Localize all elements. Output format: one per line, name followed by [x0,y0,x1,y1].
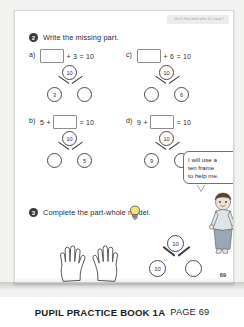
question-3-number: 3 [29,208,38,217]
part-d-operator-plus: + [143,119,147,126]
part-b-whole-node: 10 [62,131,77,146]
part-c-total: 10 [183,53,191,60]
footer-page-label: PAGE 69 [170,307,209,317]
question-2-prompt: Write the missing part. [43,33,119,42]
part-a-addend: 3 [73,53,77,60]
part-d-total: 10 [183,119,191,126]
part-c-operator-plus: + [164,53,168,60]
part-d-whole-node: 10 [159,131,174,146]
question-2-heading: 2 Write the missing part. [29,33,119,42]
part-a-operator-plus: + [67,53,71,60]
paper-sheet: Unit 3: Parts whole within 10, Lesson 7 … [14,10,234,284]
q3-left-part-node: 10 [149,260,166,277]
part-c-part-whole-model: 10 6 [138,65,196,105]
part-a-right-part-node[interactable] [77,87,92,102]
part-b: b) 5 + = 10 10 5 [29,115,126,171]
part-a-whole-node: 10 [62,65,77,80]
speech-bubble: I will use a ten frame to help me. [183,151,234,184]
part-c-answer-box[interactable] [137,49,161,63]
footer-book-title: PUPIL PRACTICE BOOK 1A [35,307,166,318]
footer-bar: PUPIL PRACTICE BOOK 1A PAGE 69 [0,297,244,327]
sheet-page-number: 69 [220,272,226,278]
part-a-equation: + 3 = 10 [29,49,126,63]
part-a-part-whole-model: 10 3 [41,65,99,105]
speech-bubble-line-3: to help me. [188,172,234,180]
lightbulb-icon [129,205,141,221]
part-d-label: d) [126,117,132,124]
speech-bubble-line-1: I will use a [188,156,234,164]
part-d-addend: 9 [137,119,141,126]
part-b-answer-box[interactable] [53,115,77,129]
question-2-number: 2 [29,33,38,42]
part-c-left-part-node[interactable] [144,87,159,102]
part-b-label: b) [29,117,35,124]
q3-right-part-node[interactable] [185,260,202,277]
student-character-illustration [203,192,234,254]
part-a-answer-box[interactable] [40,49,64,63]
part-d-equation: 9 + = 10 [126,115,223,129]
unit-lesson-header: Unit 3: Parts whole within 10, Lesson 7 [167,15,229,24]
part-a-left-part-node: 3 [47,87,62,102]
part-b-total: 10 [86,119,94,126]
part-b-operator-plus: + [46,119,50,126]
part-c-equation: + 6 = 10 [126,49,223,63]
part-b-part-whole-model: 10 5 [41,131,99,171]
part-b-equals: = [80,119,84,126]
speech-bubble-line-2: ten frame [188,164,234,172]
part-a-total: 10 [86,53,94,60]
part-c-addend: 6 [170,53,174,60]
part-b-addend: 5 [40,119,44,126]
two-open-hands-illustration [53,237,125,283]
part-a-equals: = [80,53,84,60]
part-d-equals: = [177,119,181,126]
part-c-equals: = [177,53,181,60]
part-b-right-part-node: 5 [77,153,92,168]
part-a-label: a) [29,51,35,58]
part-a: a) + 3 = 10 10 3 [29,49,126,105]
part-d-answer-box[interactable] [150,115,174,129]
speech-bubble-tail [197,184,205,191]
part-c: c) + 6 = 10 10 6 [126,49,223,105]
page-shadow [0,282,244,291]
part-c-label: c) [126,51,132,58]
part-b-left-part-node[interactable] [47,153,62,168]
worksheet-page: Unit 3: Parts whole within 10, Lesson 7 … [0,0,244,327]
question-3-part-whole-model: 10 10 [145,235,207,281]
part-b-equation: 5 + = 10 [29,115,126,129]
part-c-right-part-node: 6 [174,87,189,102]
q3-whole-node: 10 [167,235,184,252]
parts-row-1: a) + 3 = 10 10 3 [29,49,224,105]
part-c-whole-node: 10 [159,65,174,80]
part-d-left-part-node: 9 [144,153,159,168]
